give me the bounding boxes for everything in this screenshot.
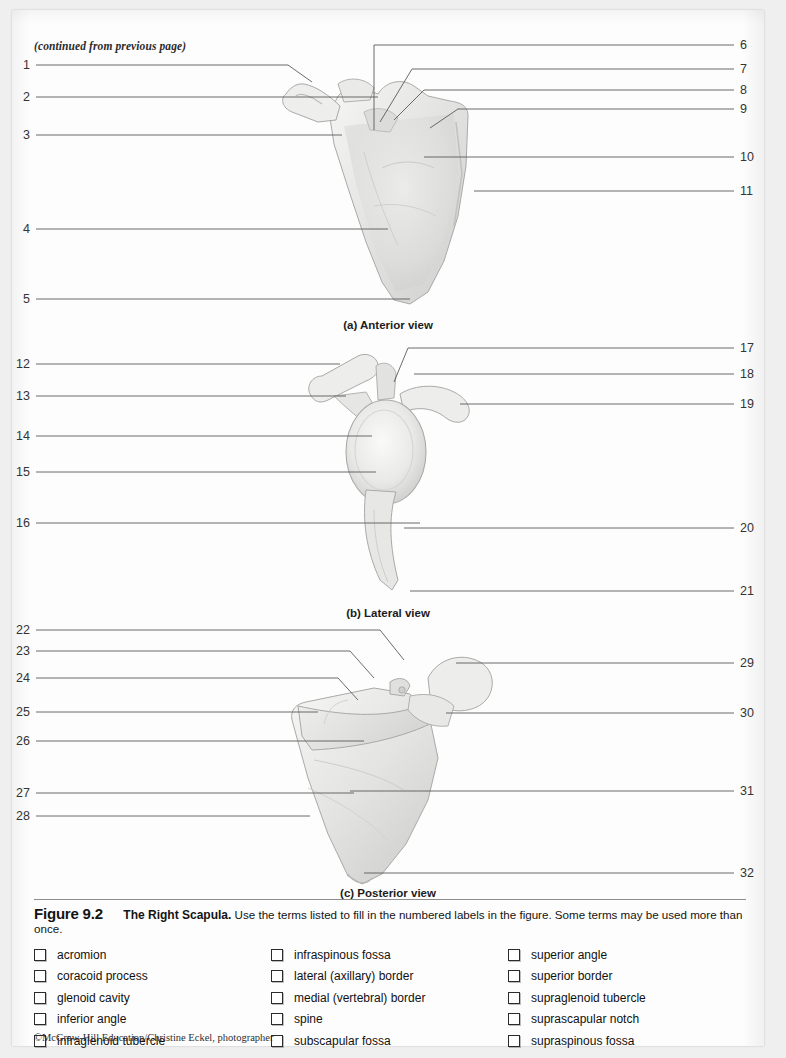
term-label: infraspinous fossa (294, 948, 391, 962)
label-number-6: 6 (740, 39, 762, 51)
checkbox-icon[interactable] (508, 949, 520, 961)
label-number-20: 20 (740, 522, 762, 534)
panel-a-caption: (a) Anterior view (12, 319, 764, 331)
term-item[interactable]: acromion (34, 944, 271, 966)
scapula-anterior-image (278, 56, 498, 316)
term-label: acromion (57, 948, 106, 962)
term-label: superior angle (531, 948, 607, 962)
checkbox-icon[interactable] (34, 992, 46, 1004)
label-number-26: 26 (12, 735, 30, 747)
figure-caption-block: Figure 9.2 The Right Scapula. Use the te… (34, 899, 746, 1052)
figure-title: The Right Scapula. (123, 908, 231, 922)
checkbox-icon[interactable] (34, 970, 46, 982)
page-sheet: (continued from previous page) (12, 10, 764, 1046)
term-label: superior border (531, 969, 612, 983)
label-number-10: 10 (740, 151, 762, 163)
term-label: suprascapular notch (531, 1012, 639, 1026)
term-label: supraglenoid tubercle (531, 991, 646, 1005)
label-number-11: 11 (740, 185, 762, 197)
checkbox-icon[interactable] (34, 949, 46, 961)
label-number-2: 2 (12, 91, 30, 103)
label-number-14: 14 (12, 430, 30, 442)
panel-b-caption: (b) Lateral view (12, 607, 764, 619)
term-label: lateral (axillary) border (294, 969, 413, 983)
checkbox-icon[interactable] (508, 1013, 520, 1025)
label-number-25: 25 (12, 706, 30, 718)
panel-c-caption: (c) Posterior view (12, 887, 764, 899)
term-label: glenoid cavity (57, 991, 130, 1005)
checkbox-icon[interactable] (508, 992, 520, 1004)
label-number-16: 16 (12, 517, 30, 529)
label-number-24: 24 (12, 672, 30, 684)
term-label: spine (294, 1012, 323, 1026)
label-number-22: 22 (12, 624, 30, 636)
checkbox-icon[interactable] (508, 970, 520, 982)
term-column-2: infraspinous fossa lateral (axillary) bo… (271, 944, 508, 1052)
label-number-1: 1 (12, 59, 30, 71)
checkbox-icon[interactable] (508, 1035, 520, 1047)
term-item[interactable]: glenoid cavity (34, 987, 271, 1009)
term-item[interactable]: spine (271, 1009, 508, 1031)
label-number-9: 9 (740, 103, 762, 115)
label-number-27: 27 (12, 787, 30, 799)
scapula-lateral-image (304, 350, 484, 600)
label-number-4: 4 (12, 223, 30, 235)
label-number-29: 29 (740, 657, 762, 669)
label-number-30: 30 (740, 707, 762, 719)
caption-divider (34, 899, 746, 900)
photo-credit: ©McGraw-Hill Education/Christine Eckel, … (34, 1032, 274, 1043)
label-number-8: 8 (740, 84, 762, 96)
label-number-18: 18 (740, 368, 762, 380)
label-number-28: 28 (12, 810, 30, 822)
term-item[interactable]: lateral (axillary) border (271, 966, 508, 988)
checkbox-icon[interactable] (271, 1013, 283, 1025)
scapula-posterior-image (278, 648, 504, 888)
term-item[interactable]: coracoid process (34, 966, 271, 988)
term-item[interactable]: supraglenoid tubercle (508, 987, 745, 1009)
term-column-3: superior angle superior border supraglen… (508, 944, 745, 1052)
term-item[interactable]: superior angle (508, 944, 745, 966)
label-number-32: 32 (740, 867, 762, 879)
label-number-7: 7 (740, 63, 762, 75)
label-number-15: 15 (12, 466, 30, 478)
term-label: inferior angle (57, 1012, 126, 1026)
checkbox-icon[interactable] (271, 992, 283, 1004)
label-number-3: 3 (12, 129, 30, 141)
checkbox-icon[interactable] (271, 949, 283, 961)
term-label: medial (vertebral) border (294, 991, 425, 1005)
figure-number: Figure 9.2 (34, 905, 103, 922)
term-item[interactable]: medial (vertebral) border (271, 987, 508, 1009)
term-label: subscapular fossa (294, 1034, 391, 1048)
label-number-17: 17 (740, 342, 762, 354)
term-item[interactable]: superior border (508, 966, 745, 988)
term-item[interactable]: infraspinous fossa (271, 944, 508, 966)
label-number-13: 13 (12, 390, 30, 402)
label-number-12: 12 (12, 358, 30, 370)
label-number-21: 21 (740, 585, 762, 597)
label-number-31: 31 (740, 785, 762, 797)
term-item[interactable]: suprascapular notch (508, 1009, 745, 1031)
term-item[interactable]: subscapular fossa (271, 1030, 508, 1052)
term-item[interactable]: supraspinous fossa (508, 1030, 745, 1052)
label-number-23: 23 (12, 645, 30, 657)
term-item[interactable]: inferior angle (34, 1009, 271, 1031)
label-number-19: 19 (740, 398, 762, 410)
scanned-page: (continued from previous page) (0, 0, 786, 1058)
checkbox-icon[interactable] (271, 970, 283, 982)
continued-note: (continued from previous page) (34, 40, 186, 52)
term-label: supraspinous fossa (531, 1034, 634, 1048)
checkbox-icon[interactable] (34, 1013, 46, 1025)
figure-caption-line: Figure 9.2 The Right Scapula. Use the te… (34, 907, 746, 936)
label-number-5: 5 (12, 293, 30, 305)
term-label: coracoid process (57, 969, 148, 983)
